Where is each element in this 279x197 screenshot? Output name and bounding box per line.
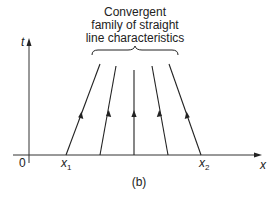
characteristic-line-5 — [169, 64, 201, 155]
characteristic-line-1 — [66, 64, 100, 155]
origin-label: 0 — [19, 156, 26, 170]
annotation-line-3: line characteristics — [86, 31, 185, 45]
characteristic-line-4 — [152, 66, 168, 155]
arrow-icon — [106, 110, 111, 117]
x-axis-label: x — [259, 158, 267, 172]
curly-brace — [92, 46, 178, 55]
arrow-icon — [131, 110, 136, 117]
characteristic-line-2 — [100, 66, 116, 155]
x2-label: x2 — [198, 156, 210, 172]
figure-caption: (b) — [132, 175, 147, 189]
t-axis-arrow-icon — [27, 38, 32, 46]
characteristic-lines — [66, 64, 201, 155]
t-axis-label: t — [21, 35, 25, 49]
annotation-line-2: family of straight — [91, 18, 179, 32]
annotation-line-1: Convergent — [104, 5, 167, 19]
arrow-icon — [157, 110, 162, 117]
arrow-icon — [185, 112, 190, 120]
characteristics-diagram: Convergent family of straight line chara… — [0, 0, 279, 197]
x-axis-arrow-icon — [254, 153, 262, 158]
arrow-icon — [78, 112, 83, 120]
x1-label: x1 — [60, 156, 72, 172]
